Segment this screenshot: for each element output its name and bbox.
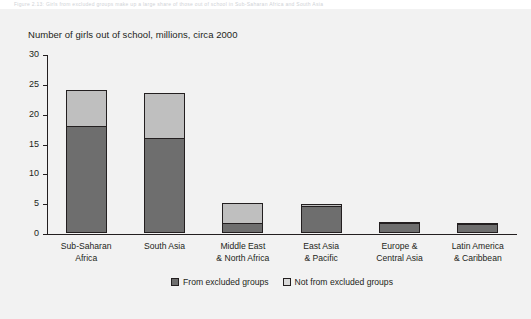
y-axis-tick-labels: 051015202530	[5, 55, 39, 235]
bar-stack[interactable]	[301, 204, 342, 233]
chart-figure: Figure 2.13: Girls from excluded groups …	[0, 0, 531, 319]
y-axis-tick	[43, 85, 47, 86]
bar-segment-from-excluded-groups[interactable]	[301, 206, 342, 233]
bar-stack[interactable]	[379, 222, 420, 233]
x-axis-line	[47, 234, 517, 235]
x-axis-tick-label-line: Latin America	[430, 241, 526, 253]
y-axis-tick-label: 0	[5, 228, 39, 238]
chart-legend: From excluded groupsNot from excluded gr…	[47, 277, 517, 287]
bar-stack[interactable]	[66, 90, 107, 233]
plot-area: 051015202530 Sub-SaharanAfricaSouth Asia…	[47, 55, 517, 234]
bar-segment-from-excluded-groups[interactable]	[66, 126, 107, 233]
y-axis-line	[47, 55, 48, 235]
bar-segment-not-from-excluded-groups[interactable]	[222, 203, 263, 223]
bar-segment-from-excluded-groups[interactable]	[222, 223, 263, 233]
x-axis-tick-label-line: Africa	[38, 253, 134, 265]
bar-segment-from-excluded-groups[interactable]	[379, 223, 420, 233]
x-axis-tick-label-line: & Caribbean	[430, 253, 526, 265]
y-axis-tick	[43, 234, 47, 235]
y-axis-tick	[43, 115, 47, 116]
y-axis-tick	[43, 204, 47, 205]
bar-segment-not-from-excluded-groups[interactable]	[66, 90, 107, 126]
y-axis-tick-label: 30	[5, 49, 39, 59]
legend-item[interactable]: Not from excluded groups	[283, 277, 393, 287]
x-axis-tick-label: Latin America& Caribbean	[430, 241, 526, 264]
y-axis-tick-label: 5	[5, 198, 39, 208]
figure-caption-cutoff: Figure 2.13: Girls from excluded groups …	[0, 0, 531, 9]
legend-swatch-dark	[171, 278, 179, 286]
bar-segment-not-from-excluded-groups[interactable]	[144, 93, 185, 138]
legend-swatch-light	[283, 278, 291, 286]
y-axis-tick	[43, 55, 47, 56]
bar-stack[interactable]	[144, 93, 185, 233]
y-axis-tick	[43, 145, 47, 146]
bar-stack[interactable]	[457, 223, 498, 233]
y-axis-tick-label: 20	[5, 109, 39, 119]
legend-label: Not from excluded groups	[295, 277, 393, 287]
y-axis-tick	[43, 174, 47, 175]
chart-title: Number of girls out of school, millions,…	[28, 29, 238, 40]
legend-item[interactable]: From excluded groups	[171, 277, 269, 287]
y-axis-tick-label: 25	[5, 79, 39, 89]
y-axis-tick-label: 15	[5, 139, 39, 149]
bar-segment-from-excluded-groups[interactable]	[144, 138, 185, 233]
bar-stack[interactable]	[222, 203, 263, 233]
bar-segment-from-excluded-groups[interactable]	[457, 224, 498, 233]
y-axis-tick-label: 10	[5, 168, 39, 178]
legend-label: From excluded groups	[183, 277, 269, 287]
